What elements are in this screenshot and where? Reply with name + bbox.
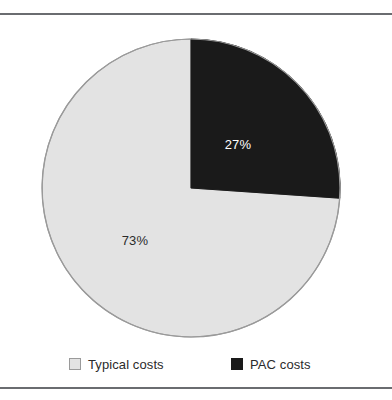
pie-chart-svg: [40, 37, 342, 339]
chart-legend: Typical costs PAC costs: [0, 350, 392, 378]
legend-swatch-pac-icon: [231, 358, 243, 370]
top-divider-rule: [0, 13, 392, 15]
bottom-divider-rule: [0, 387, 392, 389]
legend-swatch-typical-icon: [69, 358, 81, 370]
chart-plot-area: 27% 73%: [0, 16, 392, 346]
pie-chart-figure: 27% 73% Typical costs PAC costs: [0, 0, 392, 400]
pie-slice-label-pac-costs: 27%: [225, 137, 252, 152]
pie-slice-pac-costs[interactable]: [191, 39, 340, 198]
legend-label-typical-costs: Typical costs: [88, 357, 164, 372]
legend-item-typical-costs[interactable]: Typical costs: [69, 357, 164, 372]
legend-label-pac-costs: PAC costs: [250, 357, 311, 372]
legend-item-pac-costs[interactable]: PAC costs: [231, 357, 311, 372]
pie-slice-label-typical-costs: 73%: [122, 233, 149, 248]
